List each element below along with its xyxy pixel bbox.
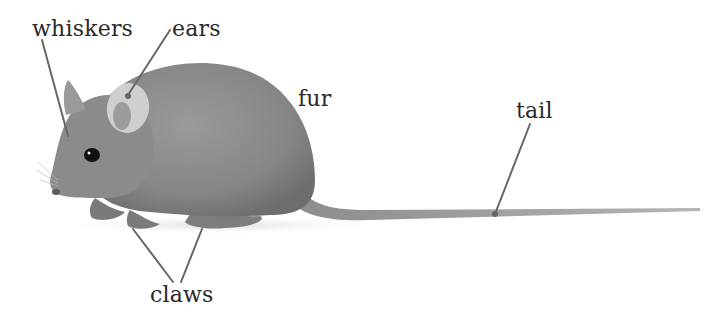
tail-leader-line xyxy=(495,124,530,214)
claws-leader-line-right xyxy=(181,229,202,282)
mouse-diagram: whiskers ears fur tail claws xyxy=(0,0,726,325)
mouse-eye xyxy=(84,148,100,162)
mouse-ear-inner xyxy=(113,102,131,130)
label-claws: claws xyxy=(150,284,214,306)
ears-leader-dot xyxy=(125,93,131,99)
whiskers-leader-line xyxy=(42,40,68,136)
label-ears: ears xyxy=(172,18,221,40)
claws-leader-line-left xyxy=(133,229,173,282)
label-tail: tail xyxy=(516,100,553,122)
tail-leader-dot xyxy=(492,211,498,217)
mouse-nose xyxy=(52,189,60,195)
mouse-eye-highlight xyxy=(88,152,91,155)
label-whiskers: whiskers xyxy=(32,18,133,40)
mouse-illustration xyxy=(0,0,726,325)
label-fur: fur xyxy=(298,88,331,110)
mouse-ear-back xyxy=(64,80,86,115)
